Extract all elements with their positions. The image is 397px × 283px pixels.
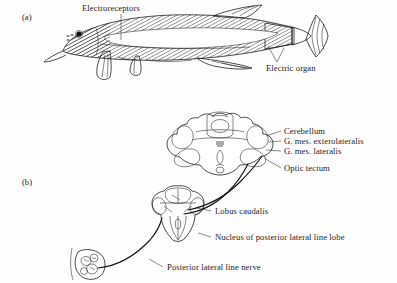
eye [76,31,81,36]
leader-cerebellum [266,131,281,136]
electroreceptor-organ-4 [81,268,88,275]
skin-section [71,248,105,280]
electroreceptor-organ-2 [90,254,98,262]
posterior-lateral-line-nerve [98,218,162,268]
leader-pll-nerve [149,259,163,267]
label-optic-tectum: Optic tectum [284,163,330,173]
brain-upper [160,108,280,183]
label-g-mes-exterolateralis: G. mes. exterolateralis [284,136,364,146]
label-posterior-lateral-line-nerve: Posterior lateral line nerve [167,262,261,272]
figure-electric-fish-electroreception: (a) (b) [0,0,397,283]
brain-diagram [71,108,281,280]
leader-nucleus-pll [198,233,211,237]
label-cerebellum: Cerebellum [284,126,325,136]
leader-optic-tectum [264,158,281,168]
label-lobus-caudalis: Lobus caudalis [215,206,268,216]
brain-lower [148,184,210,246]
caudal-peduncle [292,27,311,45]
label-nucleus-posterior-lateral-line-lobe: Nucleus of posterior lateral line lobe [215,232,345,242]
label-electric-organ: Electric organ [266,63,316,73]
label-g-mes-lateralis: G. mes. lateralis [284,146,342,156]
snout [44,51,66,62]
label-electroreceptors: Electroreceptors [82,3,140,13]
